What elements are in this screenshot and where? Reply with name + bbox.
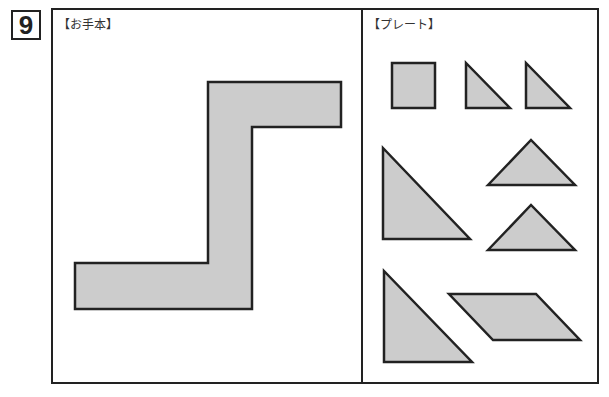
small-triangle-piece-1: [466, 63, 510, 108]
plates-panel: [383, 63, 580, 362]
small-triangle-piece-2: [526, 63, 570, 108]
medium-triangle-piece-2: [488, 205, 575, 250]
shapes-canvas: [0, 0, 609, 397]
parallelogram-piece: [449, 294, 580, 340]
z-shaped-figure: [75, 82, 341, 309]
square-piece: [392, 63, 435, 108]
medium-triangle-piece-1: [488, 140, 575, 185]
large-triangle-piece-1: [383, 148, 470, 239]
model-panel: [75, 82, 341, 309]
large-triangle-piece-2: [384, 271, 472, 362]
